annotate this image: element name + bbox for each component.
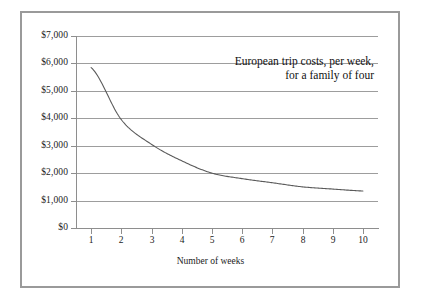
x-axis-label: Number of weeks	[0, 256, 421, 266]
chart-figure: $0$1,000$2,000$3,000$4,000$5,000$6,000$7…	[0, 0, 421, 297]
annotation-line-1: European trip costs, per week,	[180, 54, 374, 68]
chart-annotation: European trip costs, per week, for a fam…	[180, 54, 374, 82]
annotation-line-2: for a family of four	[180, 68, 374, 82]
data-curve	[0, 0, 421, 297]
